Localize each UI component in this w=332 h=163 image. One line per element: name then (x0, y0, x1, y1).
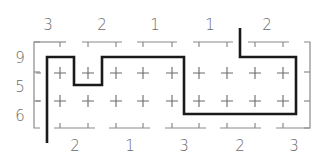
bottom-clue-4: 2 (235, 137, 245, 155)
bottom-clue-1: 2 (70, 137, 80, 155)
top-brackets (34, 42, 289, 47)
top-clue-3: 1 (150, 16, 160, 34)
left-clue-1: 9 (15, 49, 25, 67)
left-clue-2: 5 (15, 78, 25, 96)
bottom-clue-5: 3 (289, 137, 299, 155)
bottom-clue-3: 3 (179, 137, 189, 155)
top-clue-1: 3 (43, 16, 53, 34)
bottom-clue-2: 1 (125, 137, 135, 155)
left-bracket (34, 42, 40, 128)
puzzle-diagram: 3 2 1 1 2 9 5 6 2 1 3 2 3 (0, 0, 332, 163)
top-clue-2: 2 (97, 16, 107, 34)
left-clue-3: 6 (15, 107, 25, 125)
top-clue-4: 1 (205, 16, 215, 34)
plus-row-2 (54, 95, 289, 107)
right-bracket (304, 42, 310, 128)
bottom-brackets (54, 123, 310, 128)
top-clue-5: 2 (262, 16, 272, 34)
plus-row-1 (54, 67, 289, 79)
